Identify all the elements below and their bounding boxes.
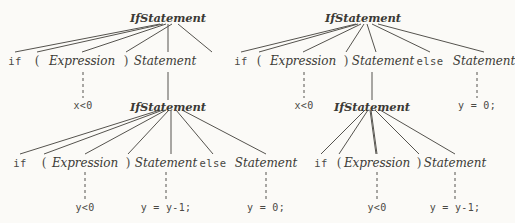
edge-left-root-expression [82, 24, 166, 52]
left-tree-inner-ifstatement: IfStatement [130, 100, 206, 114]
edge-right-root-if [241, 24, 356, 52]
right-tree-rparen-terminal: ) [344, 54, 349, 68]
right-tree-if-terminal: if [234, 55, 247, 67]
edge-left-root-statement [178, 24, 212, 52]
edge-right-inner-statement [380, 110, 455, 154]
left-tree-if-terminal: if [8, 55, 21, 67]
left-tree-inner-expression-leaf: y<0 [76, 202, 95, 213]
tree-edges [0, 0, 515, 223]
edge-left-inner-statement2 [182, 110, 266, 154]
edge-right-root-rparen [346, 24, 364, 52]
edge-right-root-else [372, 24, 430, 52]
left-tree-rparen-terminal: ) [124, 54, 129, 68]
parse-tree-figure: IfStatement if ( Expression ) Statement … [0, 0, 515, 223]
right-tree-statement2: Statement [453, 54, 515, 68]
right-tree-inner-statement: Statement [424, 156, 486, 170]
left-tree-inner-statement2-leaf: y = 0; [247, 202, 285, 213]
edge-right-inner-expression-vert [371, 110, 377, 154]
right-tree-inner-if-terminal: if [314, 157, 327, 169]
left-tree-lparen-terminal: ( [35, 54, 40, 68]
left-tree-inner-else-terminal: else [200, 157, 227, 169]
left-tree-statement: Statement [134, 54, 196, 68]
right-tree-root-ifstatement: IfStatement [325, 11, 401, 25]
edge-right-inner-if [321, 110, 365, 154]
right-tree-inner-statement-leaf: y = y-1; [430, 202, 481, 213]
right-tree-inner-expression: Expression [344, 156, 410, 170]
left-tree-expression: Expression [49, 54, 115, 68]
right-tree-else-terminal: else [417, 55, 444, 67]
right-tree-lparen-terminal: ( [257, 54, 262, 68]
right-tree-statement: Statement [352, 54, 414, 68]
edge-right-root-expression [303, 24, 361, 52]
edge-right-inner-rparen [375, 110, 419, 154]
right-tree-statement2-leaf: y = 0; [458, 100, 496, 111]
edge-left-root-lparen [37, 24, 163, 52]
left-tree-inner-if-terminal: if [13, 157, 26, 169]
edge-right-root-lparen [259, 24, 358, 52]
edge-right-root-statement [367, 24, 376, 52]
edge-right-inner-expression [370, 110, 376, 154]
edge-left-inner-if [20, 110, 160, 154]
edge-left-inner-else [176, 110, 213, 154]
right-tree-inner-lparen-terminal: ( [337, 156, 342, 170]
right-tree-expression: Expression [270, 54, 336, 68]
edge-left-inner-rparen [128, 110, 169, 154]
edge-left-root-if [15, 24, 160, 52]
edge-right-root-statement2 [378, 24, 484, 52]
left-tree-inner-statement-leaf: y = y-1; [141, 202, 192, 213]
right-tree-expression-leaf: x<0 [295, 100, 314, 111]
edge-left-root-rparen [126, 24, 172, 52]
edge-right-inner-lparen [339, 110, 368, 154]
left-tree-inner-statement2: Statement [235, 156, 297, 170]
left-tree-inner-expression: Expression [52, 156, 118, 170]
right-tree-inner-ifstatement: IfStatement [334, 100, 410, 114]
edge-left-inner-expression [85, 110, 166, 154]
left-tree-inner-statement: Statement [135, 156, 197, 170]
left-tree-inner-rparen-terminal: ) [126, 156, 131, 170]
right-tree-inner-rparen-terminal: ) [417, 156, 422, 170]
left-tree-inner-lparen-terminal: ( [42, 156, 47, 170]
left-tree-root-ifstatement: IfStatement [130, 11, 206, 25]
left-tree-expression-leaf: x<0 [74, 100, 93, 111]
edge-left-inner-lparen [44, 110, 163, 154]
right-tree-inner-expression-leaf: y<0 [368, 202, 387, 213]
